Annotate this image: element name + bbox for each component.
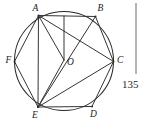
figure-page: ABCDEFO 135 xyxy=(0,0,155,133)
segment-BC xyxy=(96,17,114,62)
vertex-label-D: D xyxy=(89,109,97,119)
vertex-point-F xyxy=(14,61,16,63)
vertex-point-C xyxy=(113,61,115,63)
segment-EO xyxy=(38,60,64,107)
vertex-label-B: B xyxy=(98,3,104,13)
segment-EF xyxy=(15,62,39,108)
vertex-point-B xyxy=(95,16,97,18)
segment-AC xyxy=(39,16,114,62)
vertex-point-D xyxy=(91,106,93,108)
page-number: 135 xyxy=(122,78,139,90)
vertex-point-A xyxy=(38,15,40,17)
vertex-label-O: O xyxy=(67,57,74,67)
segment-AF xyxy=(15,16,39,62)
vertex-label-A: A xyxy=(32,3,39,13)
segment-AE xyxy=(38,16,39,108)
segment-DE xyxy=(38,107,92,108)
geometry-figure: ABCDEFO 135 xyxy=(0,0,155,133)
vertex-label-E: E xyxy=(31,110,38,120)
segment-AB xyxy=(39,16,96,17)
vertex-label-F: F xyxy=(5,55,12,65)
vertex-point-E xyxy=(37,106,39,108)
vertex-label-C: C xyxy=(117,55,124,65)
segment-AO xyxy=(39,16,65,61)
